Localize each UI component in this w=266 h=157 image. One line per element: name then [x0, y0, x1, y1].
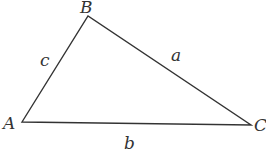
- triangle-abc: [22, 16, 251, 125]
- side-label-b: b: [124, 135, 135, 152]
- side-label-c: c: [40, 52, 50, 69]
- vertex-label-c: C: [254, 117, 266, 134]
- vertex-label-a: A: [3, 115, 15, 132]
- vertex-label-b: B: [80, 0, 93, 16]
- side-label-a: a: [171, 47, 181, 64]
- triangle-diagram: B A C c a b: [0, 0, 266, 157]
